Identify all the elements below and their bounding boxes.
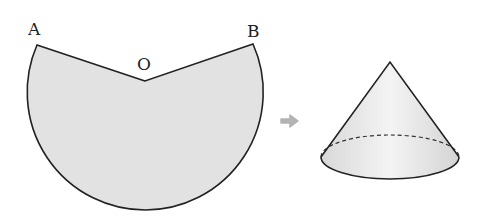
- right-arrow-icon: [281, 115, 298, 127]
- label-b: B: [247, 21, 260, 41]
- label-a: A: [27, 19, 41, 39]
- label-o: O: [137, 54, 151, 74]
- cone-shape: [321, 62, 459, 179]
- sector-to-cone-diagram: A B O: [0, 0, 483, 217]
